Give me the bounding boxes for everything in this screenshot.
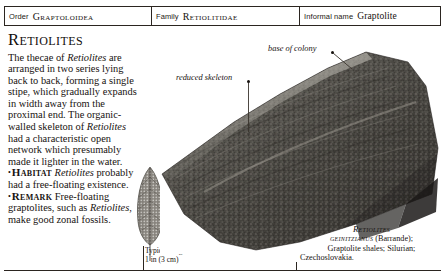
taxon-cell-order: Order Graptoloidea: [5, 7, 151, 25]
description-column: Retiolites The thecae of Retiolites are …: [8, 32, 140, 225]
leader-line-base-of-colony: [330, 50, 360, 72]
bullet-habitat-italic: Retiolites: [55, 167, 94, 178]
informal-name-value: Graptolite: [357, 11, 397, 21]
footer-divider-left: [143, 246, 144, 270]
bullet-dot-icon: •: [8, 168, 11, 177]
caption-authority: (Barrande);: [373, 234, 413, 243]
bullet-habitat: •Habitat Retiolites probably had a free-…: [8, 167, 140, 190]
caption-species: geinitzianus: [330, 233, 373, 243]
page-title: Retiolites: [8, 32, 140, 49]
annotation-base-of-colony: base of colony: [268, 44, 316, 53]
taxonomy-bar: Order Graptoloidea Family Retiolitidae I…: [4, 6, 441, 26]
desc-text-2: are arranged in two series lying back to…: [8, 52, 137, 133]
taxon-cell-informal-name: Informal name Graptolite: [299, 7, 440, 25]
specimen-caption: Retiolites geinitzianus (Barrande); Grap…: [300, 225, 443, 263]
taxon-cell-family: Family Retiolitidae: [151, 7, 299, 25]
family-label: Family: [156, 12, 179, 21]
bullet-remark: •Remark Free-floating graptolites, such …: [8, 191, 140, 226]
desc-text-3: had a characteristic open network which …: [8, 133, 122, 167]
desc-text-1: The thecae of: [8, 52, 67, 63]
leader-line-reduced-skeleton: [246, 82, 260, 134]
fact-bullet-list: •Habitat Retiolites probably had a free-…: [8, 167, 140, 225]
description-paragraph: The thecae of Retiolites are arranged in…: [8, 52, 140, 168]
bullet-remark-italic: Retiolites: [90, 202, 129, 213]
bullet-remark-keyword: Remark: [12, 190, 52, 202]
specimen-photograph: [160, 28, 445, 254]
page-bottom-rule: [4, 270, 441, 271]
order-value: Graptoloidea: [33, 11, 94, 22]
caption-line-3: Graptolite shales; Silurian;: [300, 244, 443, 253]
informal-name-label: Informal name: [304, 12, 353, 21]
desc-italic-1: Retiolites: [67, 52, 106, 63]
order-label: Order: [9, 12, 29, 21]
scale-caption-line-2: 1 in (3 cm): [145, 256, 189, 265]
fossil-field-guide-page: Order Graptoloidea Family Retiolitidae I…: [0, 0, 445, 279]
desc-italic-2: Retiolites: [87, 121, 126, 132]
family-value: Retiolitidae: [183, 11, 238, 22]
caption-line-4: Czechoslovakia.: [300, 253, 443, 262]
footer-divider-right: [296, 262, 297, 270]
annotation-reduced-skeleton: reduced skeleton: [176, 73, 232, 82]
bullet-dot-icon: •: [8, 192, 11, 201]
bullet-habitat-keyword: Habitat: [12, 166, 52, 178]
